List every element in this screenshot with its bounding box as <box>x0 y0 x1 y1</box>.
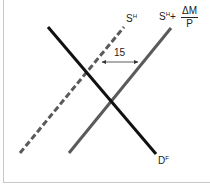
supply-shifted-label: SH+ <box>159 12 176 22</box>
money-over-price-fraction: ΔM P <box>181 6 198 29</box>
demand-foreign-label: DF <box>158 156 169 166</box>
supply-home-dashed-line <box>20 27 124 153</box>
supply-home-label: SH <box>126 14 137 24</box>
diagram-canvas <box>0 0 210 189</box>
shift-amount-label: 15 <box>114 48 125 58</box>
demand-foreign-line <box>48 27 156 154</box>
